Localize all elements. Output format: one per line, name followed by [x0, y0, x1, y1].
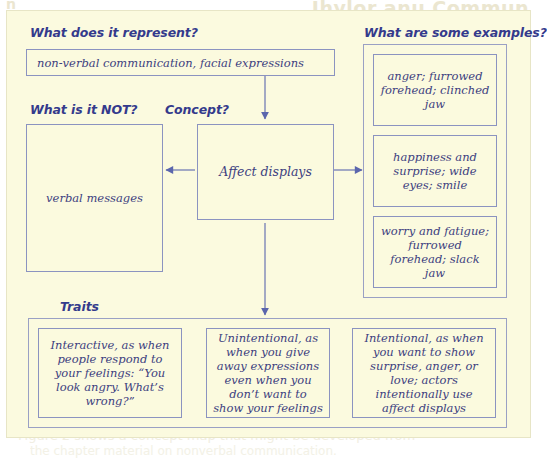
- heading-what-is-it-not: What is it NOT?: [30, 102, 138, 117]
- heading-what-are-some-examples: What are some examples?: [364, 25, 547, 40]
- box-what-is-it-not: verbal messages: [26, 124, 163, 272]
- box-example-1: anger; furrowed forehead; clinched jaw: [373, 54, 497, 126]
- box-concept: Affect displays: [197, 124, 334, 220]
- box-trait-1: Interactive, as when people respond to y…: [38, 328, 182, 418]
- box-trait-2: Unintentional, as when you give away exp…: [206, 328, 330, 418]
- box-example-3: worry and fatigue; furrowed forehead; sl…: [373, 216, 497, 288]
- heading-traits: Traits: [60, 299, 99, 314]
- box-example-2: happiness and surprise; wide eyes; smile: [373, 135, 497, 207]
- concept-map-card: What does it represent? What is it NOT? …: [6, 10, 531, 438]
- heading-concept: Concept?: [165, 102, 229, 117]
- heading-what-does-it-represent: What does it represent?: [30, 25, 198, 40]
- box-represent: non-verbal communication, facial express…: [26, 49, 335, 76]
- bleed-through-bottom-2: the chapter material on nonverbal commun…: [30, 444, 337, 458]
- box-trait-3: Intentional, as when you want to show su…: [352, 328, 496, 418]
